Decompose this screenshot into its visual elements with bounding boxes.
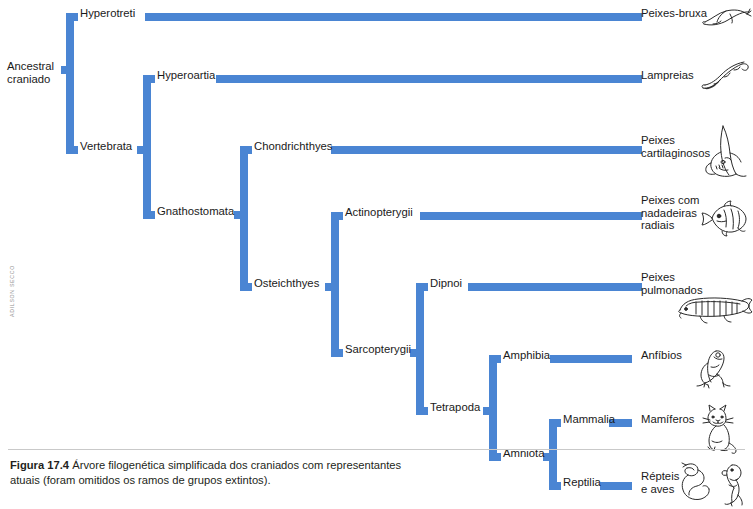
frog-illustration bbox=[692, 345, 734, 389]
branch-dipnoi-stub bbox=[416, 283, 428, 291]
branch-osteichthyes-stub bbox=[240, 283, 252, 291]
branch-osteichthyes-vertical bbox=[331, 212, 339, 357]
branch-dipnoi-terminal bbox=[468, 283, 642, 291]
node-label-hyperoartia[interactable]: Hyperoartia bbox=[157, 69, 215, 81]
lungfish-illustration bbox=[676, 286, 752, 326]
branch-tetrapoda-stub bbox=[416, 407, 428, 415]
root-label-line-2: craniado bbox=[7, 73, 54, 86]
node-label-gnathostomata[interactable]: Gnathostomata bbox=[157, 205, 234, 217]
branch-hyperoartia-terminal bbox=[216, 75, 642, 83]
branch-chondrichthyes-terminal bbox=[331, 146, 642, 154]
branch-gnathostomata-stub bbox=[143, 211, 155, 219]
leaf-line-1: Peixes com bbox=[641, 194, 699, 207]
branch-actinopterygii-stub bbox=[331, 212, 343, 220]
branch-root-vertical bbox=[66, 13, 74, 154]
root-label-ancestral-craniado: Ancestral craniado bbox=[7, 60, 54, 85]
root-label-line-1: Ancestral bbox=[7, 60, 54, 73]
leaf-line-1: Mamíferos bbox=[641, 413, 694, 426]
branch-hyperoartia-stub bbox=[143, 75, 155, 83]
leaf-line-1: Répteis bbox=[641, 470, 679, 483]
node-label-osteichthyes[interactable]: Osteichthyes bbox=[254, 277, 319, 289]
node-label-reptilia[interactable]: Reptilia bbox=[563, 476, 601, 488]
leaf-line-2: cartilaginosos bbox=[641, 147, 710, 160]
leaf-line-1: Lampreias bbox=[641, 69, 694, 82]
branch-mammalia-stub bbox=[549, 419, 561, 427]
leaf-line-1: Anfíbios bbox=[641, 349, 682, 362]
branch-amphibia-terminal bbox=[550, 355, 632, 363]
cat-illustration bbox=[696, 403, 740, 455]
leaf-line-2: nadadeiras bbox=[641, 207, 699, 220]
node-label-amphibia[interactable]: Amphibia bbox=[503, 349, 550, 361]
leaf-line-3: radiais bbox=[641, 219, 699, 232]
node-label-actinopterygii[interactable]: Actinopterygii bbox=[345, 206, 413, 218]
figure-caption-text: Árvore filogenética simplificada dos cra… bbox=[10, 459, 401, 486]
node-label-dipnoi[interactable]: Dipnoi bbox=[430, 277, 462, 289]
branch-vertebrata-stub bbox=[66, 146, 78, 154]
branch-hyperotreti-stub bbox=[66, 13, 78, 21]
leaf-label-mamiferos[interactable]: Mamíferos bbox=[641, 413, 694, 426]
node-label-chondrichthyes[interactable]: Chondrichthyes bbox=[254, 140, 333, 152]
leaf-line-1: Peixes bbox=[641, 134, 710, 147]
node-label-vertebrata[interactable]: Vertebrata bbox=[80, 140, 132, 152]
leaf-label-lampreias[interactable]: Lampreias bbox=[641, 69, 694, 82]
lamprey-illustration bbox=[700, 60, 752, 94]
branch-vertebrata-vertical bbox=[143, 75, 151, 219]
hagfish-illustration bbox=[700, 2, 752, 32]
branch-tetrapoda-vertical bbox=[489, 355, 497, 461]
node-label-sarcopterygii[interactable]: Sarcopterygii bbox=[345, 343, 411, 355]
figure-number-label: Figura 17.4 bbox=[10, 459, 69, 471]
shark-illustration bbox=[703, 122, 751, 180]
branch-chondrichthyes-stub bbox=[240, 146, 252, 154]
figure-caption: Figura 17.4 Árvore filogenética simplifi… bbox=[10, 458, 430, 487]
branch-hyperotreti-terminal bbox=[145, 13, 642, 21]
branch-sarcopterygii-stub bbox=[331, 349, 343, 357]
leaf-label-peixes-cartilaginosos[interactable]: Peixes cartilaginosos bbox=[641, 134, 710, 159]
phylogenetic-tree-figure: ADILSON SECCO bbox=[0, 0, 753, 509]
node-label-hyperotreti[interactable]: Hyperotreti bbox=[80, 7, 135, 19]
snake-and-bird-illustration bbox=[680, 459, 752, 507]
leaf-line-1: Peixes bbox=[641, 271, 703, 284]
illustration-credit: ADILSON SECCO bbox=[9, 256, 15, 326]
leaf-label-peixes-nadadeiras-radiais[interactable]: Peixes com nadadeiras radiais bbox=[641, 194, 699, 232]
branch-reptilia-stub bbox=[549, 482, 561, 490]
node-label-mammalia[interactable]: Mammalia bbox=[563, 413, 615, 425]
branch-amniota-vertical bbox=[549, 419, 557, 490]
leaf-label-anfibios[interactable]: Anfíbios bbox=[641, 349, 682, 362]
branch-sarcopterygii-vertical bbox=[416, 283, 424, 415]
branch-actinopterygii-terminal bbox=[420, 212, 642, 220]
branch-reptilia-terminal bbox=[600, 482, 632, 490]
leaf-line-2: e aves bbox=[641, 483, 679, 496]
caption-divider bbox=[8, 449, 745, 450]
leaf-label-repteis-e-aves[interactable]: Répteis e aves bbox=[641, 470, 679, 495]
node-label-tetrapoda[interactable]: Tetrapoda bbox=[430, 401, 480, 413]
ray-finned-fish-illustration bbox=[700, 198, 752, 238]
branch-amphibia-stub bbox=[489, 355, 501, 363]
branch-amniota-stub bbox=[489, 453, 501, 461]
branch-gnathostomata-vertical bbox=[240, 146, 248, 291]
leaf-label-peixes-bruxa[interactable]: Peixes-bruxa bbox=[641, 7, 707, 20]
leaf-line-1: Peixes-bruxa bbox=[641, 7, 707, 20]
